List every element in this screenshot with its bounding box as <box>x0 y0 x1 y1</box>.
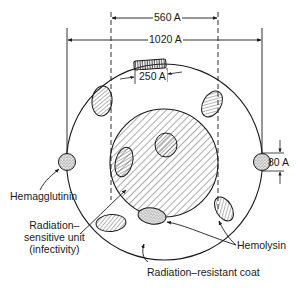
label-coat: Radiation–resistant coat <box>147 266 260 278</box>
label-radiation-sensitive-line2: sensitive unit <box>24 231 85 243</box>
label-hemagglutinin: Hemagglutinin <box>10 190 77 202</box>
dim-label-80: 80 A <box>268 156 289 168</box>
label-radiation-sensitive-line1: Radiation– <box>24 219 85 231</box>
hemolysin-ellipse <box>197 87 227 120</box>
hemagglutinin-knob-left <box>59 154 76 171</box>
hemolysin-rod <box>134 59 167 70</box>
hemolysin-ellipse <box>91 85 114 117</box>
hemolysin-ellipse <box>211 194 238 225</box>
dim-label-250: 250 A <box>138 70 167 82</box>
label-hemolysin: Hemolysin <box>237 239 286 251</box>
dim-label-560: 560 A <box>153 11 182 23</box>
label-radiation-sensitive-line3: (infectivity) <box>24 243 85 255</box>
dim-label-1020: 1020 A <box>148 33 183 45</box>
label-radiation-sensitive: Radiation– sensitive unit (infectivity) <box>24 219 85 255</box>
hemolysin-ellipse <box>155 133 177 157</box>
hemolysin-ellipse <box>95 213 126 233</box>
